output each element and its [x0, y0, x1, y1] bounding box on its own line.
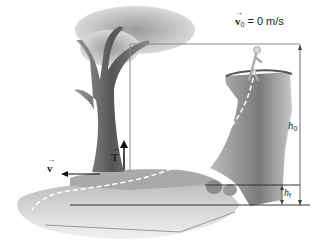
label-hf: hf	[284, 188, 291, 199]
label-velocity-bottom: v	[47, 163, 53, 174]
water	[17, 182, 240, 239]
label-tension: T	[111, 152, 118, 163]
h0-dimension	[298, 44, 302, 206]
label-v0: v0 = 0 m/s	[235, 16, 284, 28]
physics-diagram	[0, 0, 321, 248]
tree	[74, 6, 195, 172]
label-h0: h0	[288, 120, 297, 132]
